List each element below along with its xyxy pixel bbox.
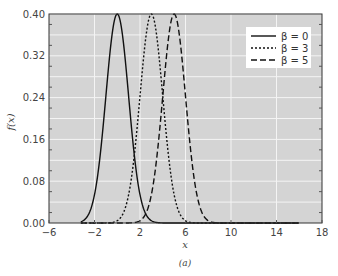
- legend: β = 0β = 3β = 5: [246, 27, 311, 68]
- chart: −6−226101418 0.000.080.160.240.320.40 x …: [0, 0, 338, 276]
- x-tick-label: −6: [42, 227, 57, 238]
- x-tick-label: 18: [316, 227, 329, 238]
- x-tick-label: −2: [87, 227, 102, 238]
- y-tick-label: 0.16: [23, 134, 45, 145]
- y-axis-label: f(x): [5, 113, 16, 131]
- x-tick-label: 14: [270, 227, 283, 238]
- legend-label: β = 5: [281, 55, 308, 66]
- y-tick-label: 0.24: [23, 92, 45, 103]
- x-tick-label: 2: [137, 227, 143, 238]
- y-tick-label: 0.32: [23, 50, 45, 61]
- x-tick-label: 10: [225, 227, 238, 238]
- y-tick-label: 0.00: [23, 218, 45, 229]
- y-tick-label: 0.40: [23, 9, 45, 20]
- figure-caption: (a): [179, 258, 192, 268]
- legend-label: β = 0: [281, 31, 308, 42]
- x-axis-label: x: [182, 239, 188, 250]
- legend-label: β = 3: [281, 43, 308, 54]
- x-tick-label: 6: [182, 227, 188, 238]
- y-tick-label: 0.08: [23, 176, 45, 187]
